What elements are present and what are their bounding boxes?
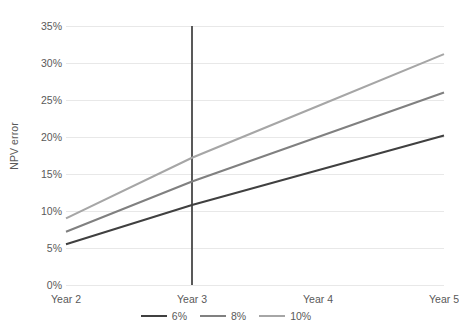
legend-line-swatch-icon [200,315,226,317]
legend-line-swatch-icon [259,315,285,317]
x-tick-label-year-3: Year 3 [177,293,207,305]
legend-item-8pct[interactable]: 8% [200,310,246,322]
legend-item-6pct[interactable]: 6% [141,310,187,322]
legend-item-10pct[interactable]: 10% [259,310,311,322]
x-tick-label-year-5: Year 5 [429,293,459,305]
chart-legend: 6%8%10% [0,310,452,322]
x-tick-label-year-2: Year 2 [51,293,81,305]
legend-line-swatch-icon [141,315,167,317]
legend-label: 10% [290,310,311,322]
legend-label: 6% [172,310,187,322]
legend-label: 8% [231,310,246,322]
x-tick-label-year-4: Year 4 [303,293,333,305]
